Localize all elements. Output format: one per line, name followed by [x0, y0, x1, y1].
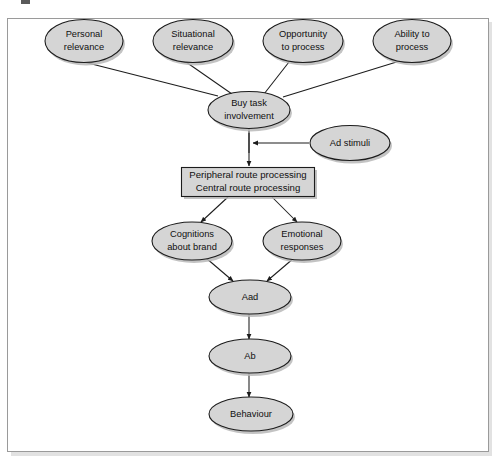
scan-artifact	[21, 0, 30, 4]
node-shape	[263, 20, 343, 63]
model-diagram: Personal relevance Situational relevance…	[0, 0, 494, 459]
node-shape	[153, 20, 233, 63]
node-shape	[310, 126, 390, 161]
node-shape	[209, 397, 293, 431]
diagram-frame	[8, 19, 489, 452]
node-shape	[152, 222, 232, 260]
node-shape	[45, 20, 123, 63]
node-shape	[373, 20, 451, 63]
node-shape	[182, 168, 315, 197]
node-shape	[263, 222, 341, 260]
node-shape	[209, 339, 291, 373]
node-shape	[209, 280, 291, 314]
diagram-canvas: Personal relevance Situational relevance…	[0, 0, 494, 459]
node-route-processing[interactable]: Peripheral route processing Central rout…	[182, 168, 318, 200]
node-shape	[208, 92, 290, 129]
